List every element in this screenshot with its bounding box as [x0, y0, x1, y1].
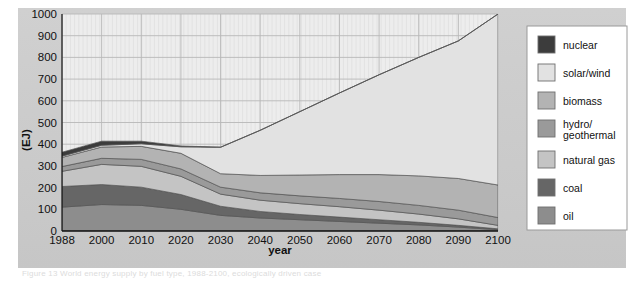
x-tick-label: 2090: [446, 234, 472, 246]
legend-swatch: [538, 207, 555, 224]
x-axis-title: year: [268, 244, 292, 256]
legend: nuclearsolar/windbiomasshydro/geothermal…: [527, 26, 627, 230]
legend-label: coal: [563, 182, 582, 194]
x-tick-label: 2000: [89, 234, 115, 246]
y-tick-label: 400: [38, 138, 57, 150]
x-tick-label: 2010: [128, 234, 154, 246]
y-tick-label: 300: [38, 160, 57, 172]
y-axis-tick-labels: 01002003004005006007008009001000: [31, 8, 57, 237]
stacked-area-chart: 01002003004005006007008009001000 1988200…: [0, 0, 644, 281]
legend-swatch: [538, 92, 555, 109]
y-tick-label: 1000: [31, 8, 57, 20]
x-tick-label: 2080: [406, 234, 432, 246]
y-tick-label: 500: [38, 117, 57, 129]
legend-label: geothermal: [563, 129, 616, 141]
legend-swatch: [538, 64, 555, 81]
legend-swatch: [538, 120, 555, 137]
legend-label: oil: [563, 210, 574, 222]
y-tick-label: 600: [38, 95, 57, 107]
figure-container: 01002003004005006007008009001000 1988200…: [0, 0, 644, 281]
y-axis-title: (EJ): [20, 129, 32, 151]
y-tick-label: 700: [38, 73, 57, 85]
legend-swatch: [538, 151, 555, 168]
figure-caption: Figure 13 World energy supply by fuel ty…: [22, 269, 321, 278]
y-tick-label: 800: [38, 51, 57, 63]
y-tick-label: 200: [38, 182, 57, 194]
legend-swatch: [538, 36, 555, 53]
legend-label: biomass: [563, 95, 602, 107]
x-tick-label: 2020: [168, 234, 194, 246]
legend-label: nuclear: [563, 39, 598, 51]
legend-label: natural gas: [563, 154, 615, 166]
x-tick-label: 2060: [327, 234, 353, 246]
x-tick-label: 2030: [208, 234, 234, 246]
legend-swatch: [538, 179, 555, 196]
y-tick-label: 900: [38, 30, 57, 42]
y-tick-label: 100: [38, 203, 57, 215]
legend-label: solar/wind: [563, 67, 610, 79]
x-tick-label: 2070: [366, 234, 392, 246]
x-tick-label: 2100: [485, 234, 511, 246]
x-tick-label: 1988: [49, 234, 75, 246]
